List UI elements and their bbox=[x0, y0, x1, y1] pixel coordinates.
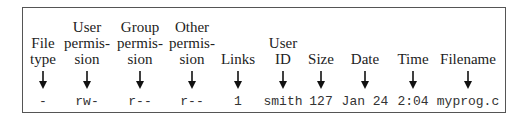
field-value: 127 bbox=[309, 94, 332, 109]
field-value: smith bbox=[263, 94, 302, 109]
field-value: 2:04 bbox=[397, 94, 428, 109]
field-value: rw- bbox=[75, 94, 98, 109]
field-label-line: User bbox=[243, 35, 323, 51]
down-arrow-icon bbox=[360, 71, 370, 89]
field-value: r-- bbox=[180, 94, 203, 109]
field-value: 1 bbox=[234, 94, 242, 109]
down-arrow-icon bbox=[82, 71, 92, 89]
down-arrow-icon bbox=[278, 71, 288, 89]
field-label-line: Other bbox=[152, 19, 232, 35]
field-label-line: Filename bbox=[428, 51, 508, 67]
down-arrow-icon bbox=[316, 71, 326, 89]
field-value: - bbox=[39, 94, 47, 109]
field-value: Jan 24 bbox=[342, 94, 389, 109]
down-arrow-icon bbox=[233, 71, 243, 89]
field-value: r-- bbox=[128, 94, 151, 109]
field-label: Filename bbox=[428, 51, 508, 67]
field-label-line: permis- bbox=[152, 35, 232, 51]
down-arrow-icon bbox=[38, 71, 48, 89]
down-arrow-icon bbox=[408, 71, 418, 89]
down-arrow-icon bbox=[187, 71, 197, 89]
down-arrow-icon bbox=[135, 71, 145, 89]
down-arrow-icon bbox=[463, 71, 473, 89]
field-value: myprog.c bbox=[437, 94, 499, 109]
ls-fields-diagram: Filetype-Userpermis-sionrw-Grouppermis-s… bbox=[22, 7, 506, 113]
